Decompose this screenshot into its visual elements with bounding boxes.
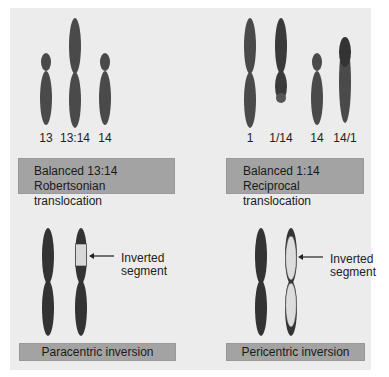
inverted-chromosome-peri: [285, 228, 297, 336]
caption-line-1: Balanced 13:14: [34, 164, 174, 179]
inverted-segment-annotation-para: Inverted segment: [121, 252, 167, 278]
arrow-icon: [89, 253, 114, 259]
caption-reciprocal: Balanced 1:14 Reciprocal translocation: [226, 158, 364, 194]
caption-line-2: Robertsonian translocation: [34, 179, 174, 209]
chromosome-1-14: [275, 18, 287, 103]
chromosome-1: [244, 18, 256, 128]
caption-paracentric: Paracentric inversion: [19, 343, 176, 361]
caption-robertsonian: Balanced 13:14 Robertsonian translocatio…: [18, 158, 175, 194]
chromosome-14: [99, 53, 111, 125]
arrow-icon: [298, 254, 323, 260]
normal-chromosome-peri: [255, 228, 267, 336]
inverted-segment-annotation-peri: Inverted segment: [330, 253, 376, 279]
chromosome-13-14: [69, 18, 81, 128]
normal-chromosome-para: [42, 228, 54, 336]
label-1-14: 1/14: [261, 131, 301, 145]
caption-line-2: Reciprocal translocation: [243, 179, 363, 209]
inverted-chromosome-para: [75, 228, 87, 336]
caption-pericentric: Pericentric inversion: [226, 343, 365, 361]
label-14-1: 14/1: [325, 131, 365, 145]
chromosome-14-1: [339, 37, 351, 123]
chromosome-13: [40, 53, 52, 125]
label-14: 14: [85, 131, 125, 145]
annotation-line-2: segment: [121, 265, 167, 278]
caption-line-1: Balanced 1:14: [243, 164, 363, 179]
chromosome-14-recip: [311, 53, 323, 125]
annotation-line-2: segment: [330, 266, 376, 279]
